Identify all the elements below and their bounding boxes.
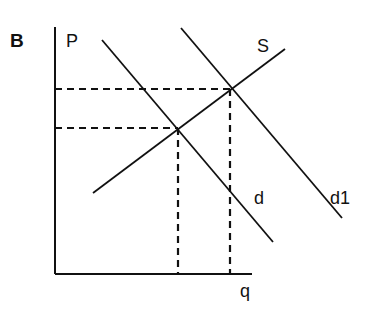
supply-curve-s bbox=[93, 49, 285, 193]
x-axis-label: q bbox=[240, 281, 250, 301]
guide-lines bbox=[55, 89, 230, 274]
panel-label: B bbox=[10, 30, 24, 51]
demand-label: d bbox=[254, 188, 264, 208]
supply-label: S bbox=[257, 36, 269, 56]
supply-demand-diagram: B P q S d d1 bbox=[0, 0, 368, 323]
demand-curve-d bbox=[102, 40, 273, 242]
y-axis-label: P bbox=[66, 31, 78, 51]
demand-shifted-label: d1 bbox=[330, 188, 350, 208]
